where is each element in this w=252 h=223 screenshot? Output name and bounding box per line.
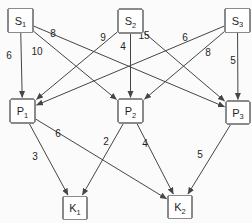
edge-P2-K1 xyxy=(82,124,123,196)
edge-label-S1-P3: 8 xyxy=(50,28,56,39)
network-diagram: 6108941568536245S1S2S3P1P2P3K1K2 xyxy=(0,0,252,223)
edge-S1-P1 xyxy=(21,33,22,98)
edge-label-S1-P2: 10 xyxy=(31,46,43,57)
edge-P2-K2 xyxy=(137,124,173,195)
edge-label-S3-P2: 8 xyxy=(205,47,211,58)
node-S3: S3 xyxy=(225,9,250,33)
edge-label-S2-P1: 9 xyxy=(100,32,106,43)
edge-P3-K2 xyxy=(188,125,231,195)
diagram-canvas: 6108941568536245S1S2S3P1P2P3K1K2 xyxy=(0,0,252,223)
edge-label-S3-P3: 5 xyxy=(230,55,236,66)
edge-label-S2-P2: 4 xyxy=(120,41,126,52)
edge-label-P1-K2: 6 xyxy=(55,128,61,139)
edge-label-P1-K1: 3 xyxy=(32,151,38,162)
edge-label-P3-K2: 5 xyxy=(197,149,203,160)
edge-label-P2-K1: 2 xyxy=(103,136,109,147)
node-P3: P3 xyxy=(226,101,250,124)
edge-label-S3-P1: 6 xyxy=(182,32,188,43)
node-P1: P1 xyxy=(10,99,35,123)
node-S1: S1 xyxy=(8,9,33,33)
edge-label-S1-P1: 6 xyxy=(6,50,12,61)
edge-label-P2-K2: 4 xyxy=(142,138,148,149)
node-P2: P2 xyxy=(118,99,143,123)
node-K2: K2 xyxy=(168,196,192,219)
node-S2: S2 xyxy=(118,9,143,33)
node-K1: K1 xyxy=(63,197,87,220)
